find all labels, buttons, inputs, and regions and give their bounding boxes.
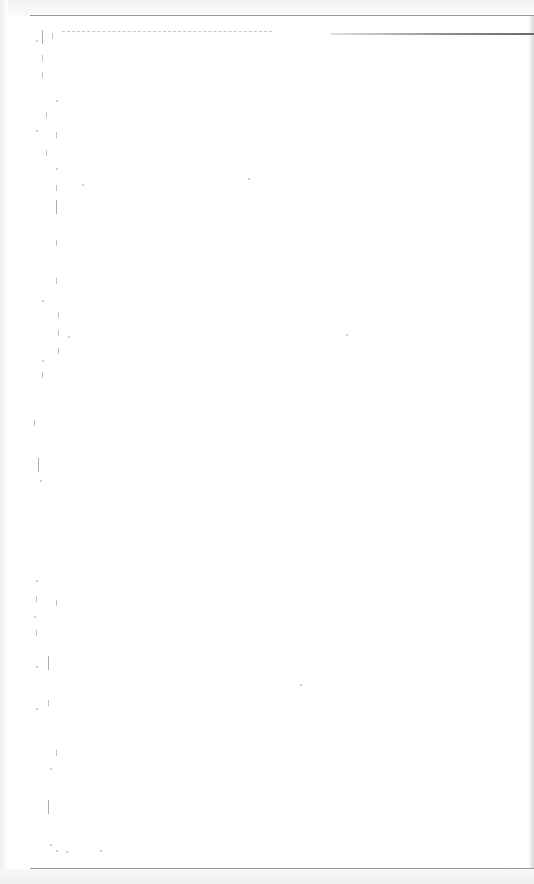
scan-left-edge-shadow (0, 0, 8, 884)
scan-mark (58, 312, 59, 318)
scan-mark (36, 40, 38, 42)
scan-mark (56, 132, 57, 138)
scan-mark (36, 666, 38, 668)
scan-mark (34, 420, 35, 426)
scan-mark (36, 630, 37, 636)
scan-mark (42, 372, 43, 378)
top-rule (30, 15, 534, 16)
scan-top-margin (0, 0, 534, 16)
scan-mark (36, 580, 38, 582)
page-body (62, 40, 522, 860)
scan-mark (56, 750, 57, 756)
scan-mark (42, 55, 43, 61)
scan-mark (36, 130, 38, 132)
scan-mark (42, 72, 43, 78)
scan-mark (46, 150, 47, 156)
scan-mark (46, 112, 47, 118)
scan-mark (56, 240, 57, 246)
scan-mark (58, 348, 59, 354)
scan-mark (36, 596, 37, 602)
scan-mark (34, 616, 36, 618)
scan-mark (56, 185, 57, 191)
scan-mark (50, 844, 52, 846)
scan-mark (42, 360, 44, 362)
scan-mark (36, 708, 38, 710)
scan-mark (50, 768, 52, 770)
scan-right-edge-shadow (528, 16, 534, 868)
scan-mark (52, 33, 53, 39)
scan-mark (48, 700, 49, 706)
scan-mark (56, 200, 57, 214)
scan-mark (56, 850, 58, 852)
header-faded-text-line (62, 31, 272, 33)
scan-mark (56, 600, 57, 606)
scan-bottom-margin (0, 869, 534, 884)
scan-mark (40, 480, 42, 482)
scan-mark (48, 656, 49, 670)
scan-mark (56, 168, 58, 170)
scan-mark (56, 278, 57, 284)
header-rule (330, 33, 534, 35)
scan-mark (42, 30, 43, 44)
scan-mark (42, 300, 44, 302)
scan-mark (58, 330, 59, 336)
scan-mark (48, 800, 49, 814)
scan-mark (38, 458, 39, 472)
scan-mark (56, 100, 58, 102)
